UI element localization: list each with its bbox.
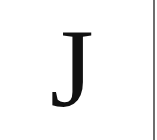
right-border-line [153,0,155,140]
letter-glyph: J [50,12,90,122]
glyph-canvas: J [0,0,157,140]
